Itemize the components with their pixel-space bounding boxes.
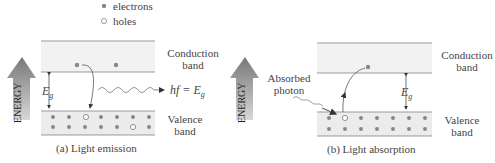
energy-label-b: ENERGY: [236, 83, 248, 123]
photon-label-a: hf = Eg: [170, 84, 205, 101]
gap-label-a: Eg: [42, 85, 53, 102]
legend-electrons: electrons: [113, 0, 153, 12]
legend-holes: holes: [113, 15, 136, 27]
hole-legend-icon: [101, 18, 106, 23]
absorbed-photon-label: Absorbedphoton: [261, 72, 317, 96]
electron-legend-icon: [102, 4, 106, 8]
valence-label-b: Valenceband: [437, 114, 487, 138]
conduction-label-a: Conductionband: [162, 47, 224, 71]
valence-band-a: [41, 111, 155, 135]
gap-label-b: Eg: [401, 86, 412, 103]
band-diagram: [0, 0, 495, 163]
caption-b: (b) Light absorption: [327, 143, 416, 155]
caption-a: (a) Light emission: [56, 142, 137, 154]
energy-label-a: ENERGY: [12, 83, 24, 123]
conduction-band-b: [317, 43, 432, 73]
valence-label-a: Valenceband: [160, 113, 210, 137]
conduction-label-b: Conductionband: [438, 49, 495, 73]
conduction-band-a: [41, 41, 155, 72]
valence-band-b: [317, 112, 432, 136]
